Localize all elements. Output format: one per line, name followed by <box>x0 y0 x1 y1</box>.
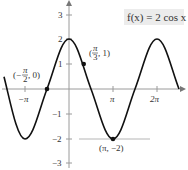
annotation-pi-over-3: ( π 3 , 1) <box>89 43 110 62</box>
y-tick-label-neg2: −2 <box>52 134 62 144</box>
point-pi-over-3 <box>81 62 86 67</box>
annotation-neg-pi-over-2: (− π 2 , 0) <box>13 65 40 84</box>
y-tick-label-3: 3 <box>58 10 63 20</box>
y-tick-label-neg3: −3 <box>52 158 62 168</box>
y-tick-label-2: 2 <box>58 34 63 44</box>
point-neg-pi-over-2 <box>45 87 50 92</box>
function-label: f(x) = 2 cos x <box>127 11 187 24</box>
x-tick-label-2pi: 2π <box>150 94 160 104</box>
svg-text:(−: (− <box>13 70 21 80</box>
svg-text:, 0): , 0) <box>28 70 40 80</box>
svg-text:(: ( <box>89 48 92 58</box>
svg-text:2: 2 <box>23 74 28 84</box>
annotation-pi: (π, −2) <box>99 143 124 153</box>
x-tick-label-pi: π <box>110 94 115 104</box>
y-tick-label-neg1: −1 <box>52 109 62 119</box>
point-pi <box>111 137 116 142</box>
svg-text:, 1): , 1) <box>98 48 110 58</box>
y-axis-arrow-icon <box>66 0 72 6</box>
x-tick-label-neg-pi: −π <box>18 94 29 104</box>
cosine-graph: 3 2 1 −1 −2 −3 −π π 2π (− π 2 , 0) ( π 3… <box>0 0 188 170</box>
x-axis-arrow-icon <box>180 86 186 92</box>
y-tick-label-1: 1 <box>58 59 63 69</box>
